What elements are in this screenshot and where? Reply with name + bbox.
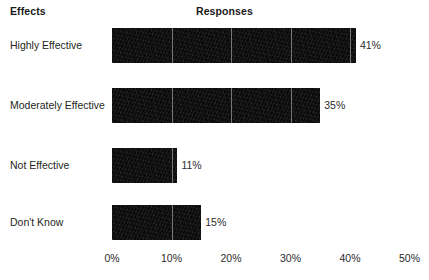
bar-row: Highly Effective41%: [0, 28, 429, 63]
bar-row: Don't Know15%: [0, 205, 429, 240]
x-tick-label: 0%: [104, 252, 119, 264]
gridline: [231, 28, 232, 63]
value-column-header: Responses: [196, 5, 253, 17]
plot-area: Highly Effective41%Moderately Effective3…: [0, 22, 429, 250]
bar-row: Moderately Effective35%: [0, 88, 429, 123]
category-column-header: Effects: [10, 5, 46, 17]
bar-row: Not Effective11%: [0, 148, 429, 183]
x-tick-label: 30%: [280, 252, 301, 264]
gridline: [291, 88, 292, 123]
gridline: [172, 88, 173, 123]
x-axis: 0%10%20%30%40%50%: [0, 252, 429, 272]
bar-value-label: 11%: [181, 148, 201, 183]
bar: [112, 148, 177, 183]
bar: [112, 205, 201, 240]
gridline: [172, 148, 173, 183]
x-tick-label: 50%: [399, 252, 420, 264]
category-label: Highly Effective: [10, 28, 82, 63]
gridline: [291, 28, 292, 63]
gridline: [172, 205, 173, 240]
gridline: [350, 28, 351, 63]
bar-value-label: 15%: [205, 205, 226, 240]
x-tick-label: 20%: [220, 252, 241, 264]
bar-value-label: 41%: [360, 28, 381, 63]
category-label: Don't Know: [10, 205, 63, 240]
x-tick-label: 10%: [161, 252, 182, 264]
bar: [112, 28, 356, 63]
category-label: Not Effective: [10, 148, 69, 183]
bar-value-label: 35%: [324, 88, 345, 123]
bar: [112, 88, 320, 123]
gridline: [231, 88, 232, 123]
gridline: [172, 28, 173, 63]
x-tick-label: 40%: [339, 252, 360, 264]
bar-chart: Effects Responses Highly Effective41%Mod…: [0, 0, 429, 280]
category-label: Moderately Effective: [10, 88, 105, 123]
